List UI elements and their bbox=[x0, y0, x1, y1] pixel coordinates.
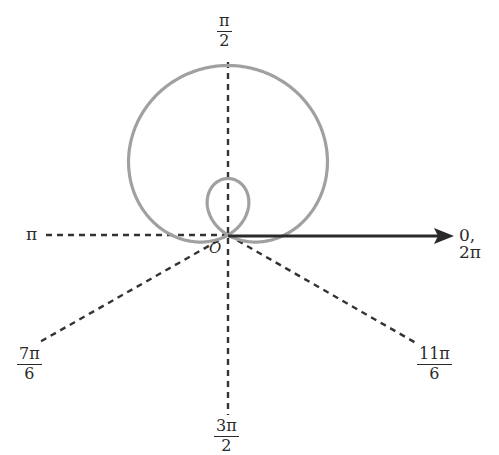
ray-11pi-6 bbox=[228, 235, 416, 343]
ray-7pi-6 bbox=[38, 235, 228, 343]
pi-label: π bbox=[26, 226, 37, 243]
seven-pi-over-6-label: 7π 6 bbox=[17, 346, 42, 383]
eleven-pi-over-6-label: 11π 6 bbox=[417, 346, 452, 383]
three-pi-over-2-label: 3π 2 bbox=[214, 418, 239, 455]
polar-axis-label: 0, 2π bbox=[459, 227, 499, 261]
origin-label: O bbox=[209, 241, 221, 256]
pi-over-2-label: π 2 bbox=[217, 13, 232, 50]
